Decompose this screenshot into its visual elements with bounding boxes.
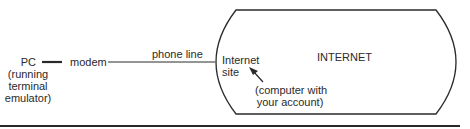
- internet-site-line1: Internet: [222, 54, 259, 66]
- pc-description: (running terminal emulator): [2, 68, 54, 104]
- internet-label: INTERNET: [317, 51, 372, 63]
- pc-line4: emulator): [2, 92, 54, 104]
- phone-line-label: phone line: [152, 48, 203, 60]
- modem-label: modem: [70, 56, 107, 68]
- internet-site-line2: site: [222, 66, 259, 78]
- annotation-line2: your account): [255, 96, 325, 108]
- pc-line2: (running: [2, 68, 54, 80]
- pc-line3: terminal: [2, 80, 54, 92]
- pc-label-line1: PC: [0, 56, 40, 68]
- annotation-line1: (computer with: [255, 84, 325, 96]
- annotation-label: (computer with your account): [255, 84, 325, 108]
- pc-label: PC: [0, 56, 40, 68]
- internet-site-label: Internet site: [222, 54, 259, 78]
